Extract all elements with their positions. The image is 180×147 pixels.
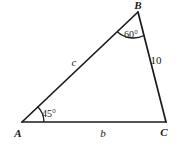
angle-label-b: 60° <box>124 30 138 40</box>
side-length-label-bc: 10 <box>151 55 162 66</box>
triangle-svg-canvas <box>0 0 180 147</box>
triangle-side-bc <box>138 12 166 122</box>
vertex-label-b: B <box>134 0 141 11</box>
triangle-figure: B A C c b 10 45° 60° <box>0 0 180 147</box>
vertex-label-c: C <box>160 127 167 138</box>
vertex-label-a: A <box>14 128 21 139</box>
triangle-side-ab <box>22 12 138 122</box>
side-label-c: c <box>72 57 77 68</box>
angle-label-a: 45° <box>42 109 56 119</box>
side-label-b: b <box>100 128 106 139</box>
